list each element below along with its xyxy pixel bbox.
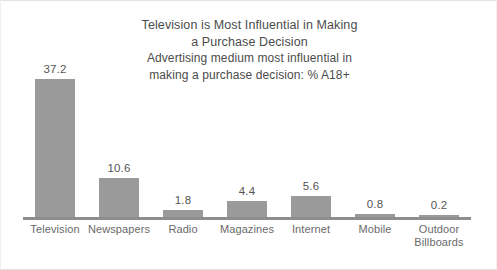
- bar[interactable]: [35, 79, 75, 217]
- x-axis-tick-label: OutdoorBillboards: [407, 223, 471, 249]
- plot-area: 37.210.61.84.45.60.80.2: [23, 41, 471, 217]
- bar-group: 5.6: [291, 41, 331, 217]
- x-axis-tick-label: Internet: [279, 223, 343, 236]
- x-axis-tick-label-line: Radio: [151, 223, 215, 236]
- x-axis-line: [23, 217, 471, 220]
- bar-group: 37.2: [35, 41, 75, 217]
- bar[interactable]: [227, 201, 267, 217]
- x-axis-tick-label: Magazines: [215, 223, 279, 236]
- bar-value-label: 5.6: [303, 179, 320, 193]
- x-axis-tick-label: Mobile: [343, 223, 407, 236]
- x-axis-tick-label: Newspapers: [87, 223, 151, 236]
- chart-figure: Television is Most Influential in Making…: [0, 0, 497, 270]
- bar-group: 1.8: [163, 41, 203, 217]
- bar-group: 0.2: [419, 41, 459, 217]
- bar[interactable]: [99, 178, 139, 217]
- x-axis-tick-label-line: Television: [23, 223, 87, 236]
- x-axis-tick-label: Radio: [151, 223, 215, 236]
- x-axis-tick-label-line: Newspapers: [87, 223, 151, 236]
- bar-value-label: 0.2: [431, 198, 448, 212]
- bar-group: 0.8: [355, 41, 395, 217]
- x-axis-tick-label-line: Outdoor: [407, 223, 471, 236]
- bar-value-label: 4.4: [239, 184, 256, 198]
- bar[interactable]: [163, 210, 203, 217]
- bar-group: 10.6: [99, 41, 139, 217]
- bar-value-label: 10.6: [107, 161, 130, 175]
- x-axis-tick-label-line: Magazines: [215, 223, 279, 236]
- bar-group: 4.4: [227, 41, 267, 217]
- bar[interactable]: [291, 196, 331, 217]
- bar-value-label: 0.8: [367, 197, 384, 211]
- x-axis-tick-label-line: Mobile: [343, 223, 407, 236]
- x-axis-tick-label-line: Billboards: [407, 236, 471, 249]
- bar-value-label: 37.2: [43, 62, 66, 76]
- chart-title-line-1: Television is Most Influential in Making: [1, 17, 497, 34]
- x-axis-tick-label: Television: [23, 223, 87, 236]
- x-axis-tick-label-line: Internet: [279, 223, 343, 236]
- bar-value-label: 1.8: [175, 193, 192, 207]
